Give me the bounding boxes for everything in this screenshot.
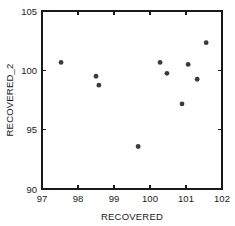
data-point-8 — [195, 77, 200, 82]
plot-canvas: 979899100101102 9095100105 RECOVERED REC… — [0, 0, 235, 226]
data-point-6 — [180, 102, 185, 107]
y-tick-label-105: 105 — [21, 6, 37, 17]
data-point-1 — [94, 74, 99, 79]
data-point-9 — [204, 40, 209, 45]
data-point-5 — [165, 71, 170, 76]
scatter-plot-figure: 979899100101102 9095100105 RECOVERED REC… — [0, 0, 235, 226]
data-points — [59, 40, 209, 149]
plot-frame — [42, 11, 222, 189]
y-tick-label-95: 95 — [26, 124, 37, 135]
data-point-3 — [136, 144, 141, 149]
plot-frame-box — [42, 11, 222, 189]
data-point-0 — [59, 60, 64, 65]
x-tick-label-100: 100 — [142, 193, 158, 204]
data-point-7 — [186, 62, 191, 67]
y-axis-tick-labels: 9095100105 — [21, 6, 37, 195]
y-axis-ticks — [42, 11, 222, 189]
data-point-4 — [158, 60, 163, 65]
x-tick-label-97: 97 — [37, 193, 48, 204]
y-tick-label-90: 90 — [26, 184, 37, 195]
x-axis-title: RECOVERED — [101, 211, 163, 222]
x-tick-label-101: 101 — [178, 193, 194, 204]
x-tick-label-98: 98 — [73, 193, 84, 204]
x-tick-label-102: 102 — [214, 193, 230, 204]
y-tick-label-100: 100 — [21, 65, 37, 76]
x-tick-label-99: 99 — [109, 193, 120, 204]
y-axis-title: RECOVERED_2 — [4, 64, 15, 137]
data-point-2 — [96, 83, 101, 88]
x-axis-ticks — [42, 11, 222, 189]
x-axis-tick-labels: 979899100101102 — [37, 193, 230, 204]
